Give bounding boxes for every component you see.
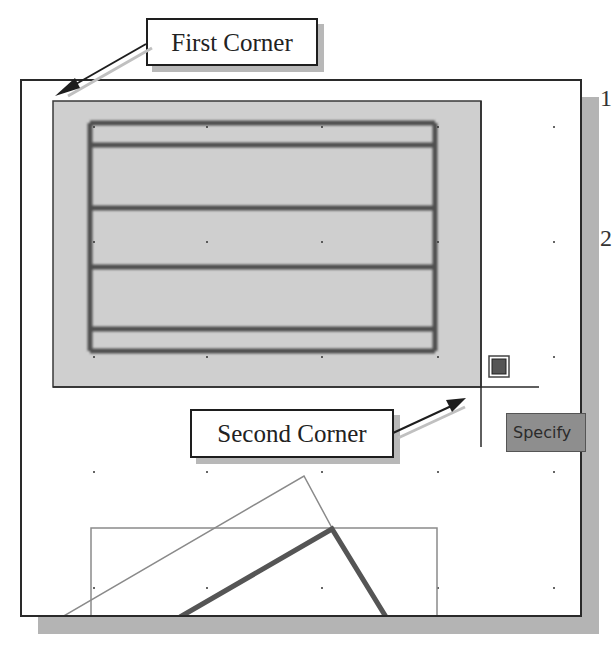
background-rectangle[interactable] xyxy=(91,528,437,615)
second-corner-callout: Second Corner xyxy=(190,409,394,458)
drawing-canvas[interactable] xyxy=(22,81,580,615)
drawing-area[interactable] xyxy=(20,79,582,617)
step-number-2: 2 xyxy=(600,226,612,250)
snap-marker-icon xyxy=(489,356,509,377)
specify-tooltip: Specify xyxy=(506,413,586,452)
thick-object[interactable] xyxy=(180,529,386,615)
rotated-outline[interactable] xyxy=(62,476,332,615)
step-number-1: 1 xyxy=(600,86,612,110)
first-corner-callout: First Corner xyxy=(146,18,318,66)
